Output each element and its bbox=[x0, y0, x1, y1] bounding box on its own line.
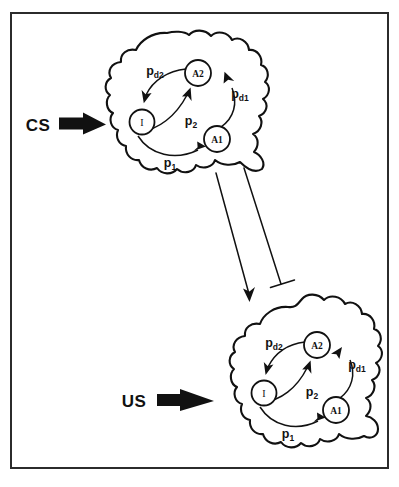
lower-node-a1[interactable]: A1 bbox=[323, 397, 349, 423]
lower-node-i-label: I bbox=[262, 388, 265, 399]
lower-label-p1: p1 bbox=[282, 427, 295, 443]
upper-label-pd2: pd2 bbox=[146, 64, 164, 80]
upper-cell: A2 I A1 pd2 p2 pd1 p1 bbox=[106, 31, 269, 174]
lower-transition-pd2-arrowhead-icon bbox=[264, 362, 274, 375]
lower-node-a2[interactable]: A2 bbox=[304, 332, 330, 358]
stimulus-us-arrow-icon bbox=[157, 389, 214, 411]
lower-node-a2-label: A2 bbox=[311, 341, 323, 351]
lower-node-i[interactable]: I bbox=[252, 381, 277, 406]
lower-transition-p1 bbox=[260, 407, 318, 426]
upper-transition-p1 bbox=[138, 136, 198, 155]
upper-node-i-label: I bbox=[140, 117, 143, 128]
stimulus-cs-label: CS bbox=[26, 116, 51, 135]
lower-transition-p2-arrowhead-icon bbox=[302, 361, 311, 374]
stimulus-us-label: US bbox=[122, 392, 147, 411]
upper-transition-pd1-arrowhead-icon bbox=[221, 72, 236, 87]
lower-node-a1-label: A1 bbox=[330, 406, 342, 416]
stimulus-cs: CS bbox=[26, 113, 106, 135]
figure-container: A2 I A1 pd2 p2 pd1 p1 bbox=[0, 0, 399, 487]
upper-node-a2-label: A2 bbox=[192, 69, 204, 79]
stimulus-cs-arrow-icon bbox=[59, 113, 106, 135]
upper-label-pd1: pd1 bbox=[231, 87, 249, 103]
stimulus-us: US bbox=[122, 389, 214, 411]
lower-label-pd1: pd1 bbox=[348, 358, 366, 374]
upper-transition-p2-arrowhead-icon bbox=[182, 88, 192, 101]
upper-node-i[interactable]: I bbox=[130, 110, 155, 135]
upper-node-a1-label: A1 bbox=[211, 135, 223, 145]
lower-label-pd2: pd2 bbox=[265, 336, 283, 352]
upper-label-p1: p1 bbox=[164, 156, 177, 172]
upper-label-p2: p2 bbox=[185, 114, 198, 130]
diagram-canvas: A2 I A1 pd2 p2 pd1 p1 bbox=[0, 0, 399, 487]
upper-transition-pd2-arrowhead-icon bbox=[142, 90, 152, 103]
lower-cell: A2 I A1 pd2 p2 pd1 p1 bbox=[230, 295, 382, 448]
upper-node-a1[interactable]: A1 bbox=[204, 126, 230, 152]
projection-inhibitory-line bbox=[244, 168, 281, 284]
projection-t-bar-icon bbox=[271, 280, 295, 288]
projection-arrowhead-icon bbox=[243, 287, 255, 302]
projection-excitatory-line bbox=[216, 173, 249, 294]
upper-node-a2[interactable]: A2 bbox=[185, 60, 211, 86]
lower-transition-pd1-arrowhead-icon bbox=[331, 347, 342, 359]
cell-to-cell-projection bbox=[216, 168, 295, 302]
lower-label-p2: p2 bbox=[306, 385, 319, 401]
